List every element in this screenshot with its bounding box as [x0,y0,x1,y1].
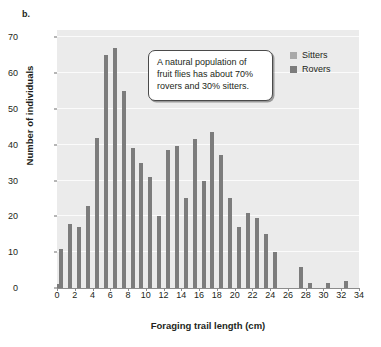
bar-rovers-18.5 [219,155,223,288]
bar-rovers-12.5 [166,150,170,288]
x-tick-mark [164,288,165,291]
callout-text: A natural population of fruit flies has … [157,57,264,93]
y-tick-label: 50 [0,104,18,114]
x-tick-label: 22 [247,290,257,300]
y-tick-label: 10 [0,247,18,257]
x-tick-label: 30 [318,290,328,300]
x-axis-line [57,288,359,289]
bar-rovers-23.5 [264,234,268,288]
x-tick-mark [359,288,360,291]
bar-rovers-5.5 [104,55,108,288]
x-tick-mark [270,288,271,291]
bar-rovers-17.5 [210,132,214,288]
x-tick-label: 18 [212,290,222,300]
y-tick-mark [54,252,57,253]
x-tick-mark [323,288,324,291]
y-tick-mark [54,108,57,109]
bar-rovers-27.5 [299,267,303,289]
y-tick-label: 20 [0,211,18,221]
x-tick-mark [217,288,218,291]
bar-rovers-9.5 [139,163,143,288]
legend-item-sitters: Sitters [290,50,331,60]
bar-rovers-4.5 [95,138,99,289]
bar-rovers-21.5 [246,213,250,288]
legend-label: Rovers [302,64,331,74]
y-tick-mark [54,216,57,217]
x-tick-mark [306,288,307,291]
x-tick-mark [181,288,182,291]
y-tick-mark [54,144,57,145]
bar-rovers-24.5 [273,252,277,288]
legend-swatch-icon [290,66,297,73]
y-tick-label: 40 [0,140,18,150]
x-tick-mark [252,288,253,291]
x-tick-label: 34 [354,290,364,300]
bar-rovers-1.5 [68,224,72,289]
bar-rovers-15.5 [193,139,197,288]
x-tick-label: 32 [336,290,346,300]
bar-rovers-3.5 [86,206,90,288]
y-tick-label: 30 [0,176,18,186]
legend-item-rovers: Rovers [290,64,331,74]
bar-rovers-19.5 [228,198,232,288]
x-tick-label: 4 [90,290,95,300]
bar-rovers-8.5 [131,148,135,288]
x-tick-label: 24 [265,290,275,300]
bar-rovers-14.5 [184,198,188,288]
x-tick-mark [288,288,289,291]
figure-panel: b. Number of individuals 010203040506070… [0,0,381,347]
y-tick-mark [54,73,57,74]
x-tick-mark [57,288,58,291]
x-tick-label: 26 [283,290,293,300]
y-tick-label: 70 [0,32,18,42]
bar-rovers-13.5 [175,146,179,288]
x-tick-mark [146,288,147,291]
x-tick-mark [341,288,342,291]
bar-rovers-11.5 [157,216,161,288]
x-tick-mark [110,288,111,291]
x-tick-label: 2 [72,290,77,300]
x-axis-title: Foraging trail length (cm) [57,320,359,331]
x-tick-mark [199,288,200,291]
y-tick-label: 60 [0,68,18,78]
bar-rovers-7.5 [122,91,126,288]
bar-rovers-32.5 [344,281,348,288]
chart-legend: SittersRovers [290,50,331,74]
x-tick-label: 0 [54,290,59,300]
panel-label: b. [22,9,30,19]
x-tick-label: 8 [126,290,131,300]
bar-rovers-6.5 [113,48,117,288]
bar-rovers-20.5 [237,227,241,288]
x-tick-mark [235,288,236,291]
callout-box: A natural population of fruit flies has … [148,50,273,101]
bar-rovers-10.5 [148,177,152,288]
y-tick-mark [54,180,57,181]
legend-swatch-icon [290,52,297,59]
bar-rovers-16.5 [202,181,206,289]
x-tick-label: 6 [108,290,113,300]
x-tick-mark [75,288,76,291]
bar-rovers-0.5 [59,249,63,288]
x-tick-label: 20 [230,290,240,300]
x-tick-label: 16 [194,290,204,300]
x-tick-label: 12 [159,290,169,300]
y-axis-title: Number of individuals [24,21,35,211]
y-tick-label: 0 [0,283,18,293]
x-tick-mark [128,288,129,291]
x-tick-mark [93,288,94,291]
y-tick-mark [54,37,57,38]
x-tick-label: 14 [176,290,186,300]
x-tick-label: 28 [301,290,311,300]
bar-rovers-2.5 [77,227,81,288]
x-tick-label: 10 [141,290,151,300]
bar-rovers-22.5 [255,218,259,288]
legend-label: Sitters [302,50,328,60]
